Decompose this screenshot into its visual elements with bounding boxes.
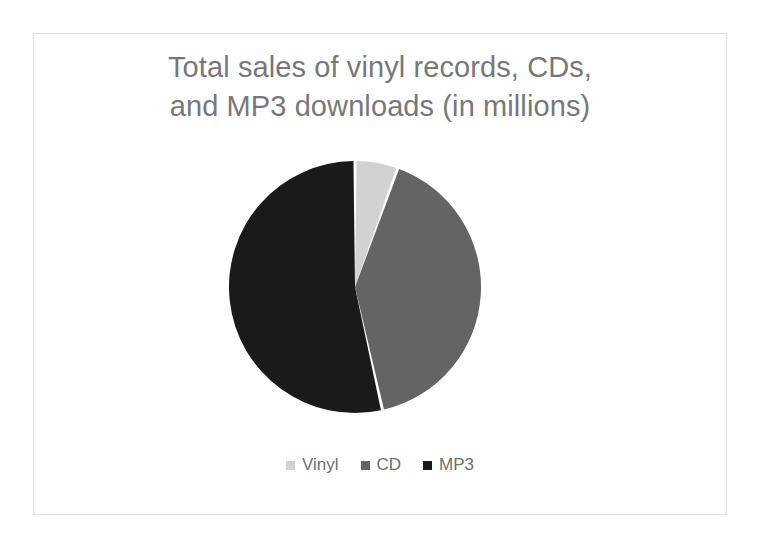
- legend-label: CD: [377, 455, 402, 475]
- legend-label: Vinyl: [302, 455, 339, 475]
- legend-item-mp3[interactable]: MP3: [423, 455, 474, 475]
- legend-swatch-icon: [361, 461, 370, 470]
- pie-svg: [221, 153, 489, 421]
- legend-item-cd[interactable]: CD: [361, 455, 402, 475]
- legend-swatch-icon: [286, 461, 295, 470]
- slide-frame: Total sales of vinyl records, CDs, and M…: [33, 33, 727, 515]
- pie-chart[interactable]: Total sales of vinyl records, CDs, and M…: [34, 34, 726, 514]
- legend-label: MP3: [439, 455, 474, 475]
- legend-item-vinyl[interactable]: Vinyl: [286, 455, 339, 475]
- legend-swatch-icon: [423, 461, 432, 470]
- chart-title: Total sales of vinyl records, CDs, and M…: [34, 48, 726, 126]
- chart-legend: VinylCDMP3: [34, 455, 726, 475]
- pie-graphic[interactable]: [221, 153, 489, 421]
